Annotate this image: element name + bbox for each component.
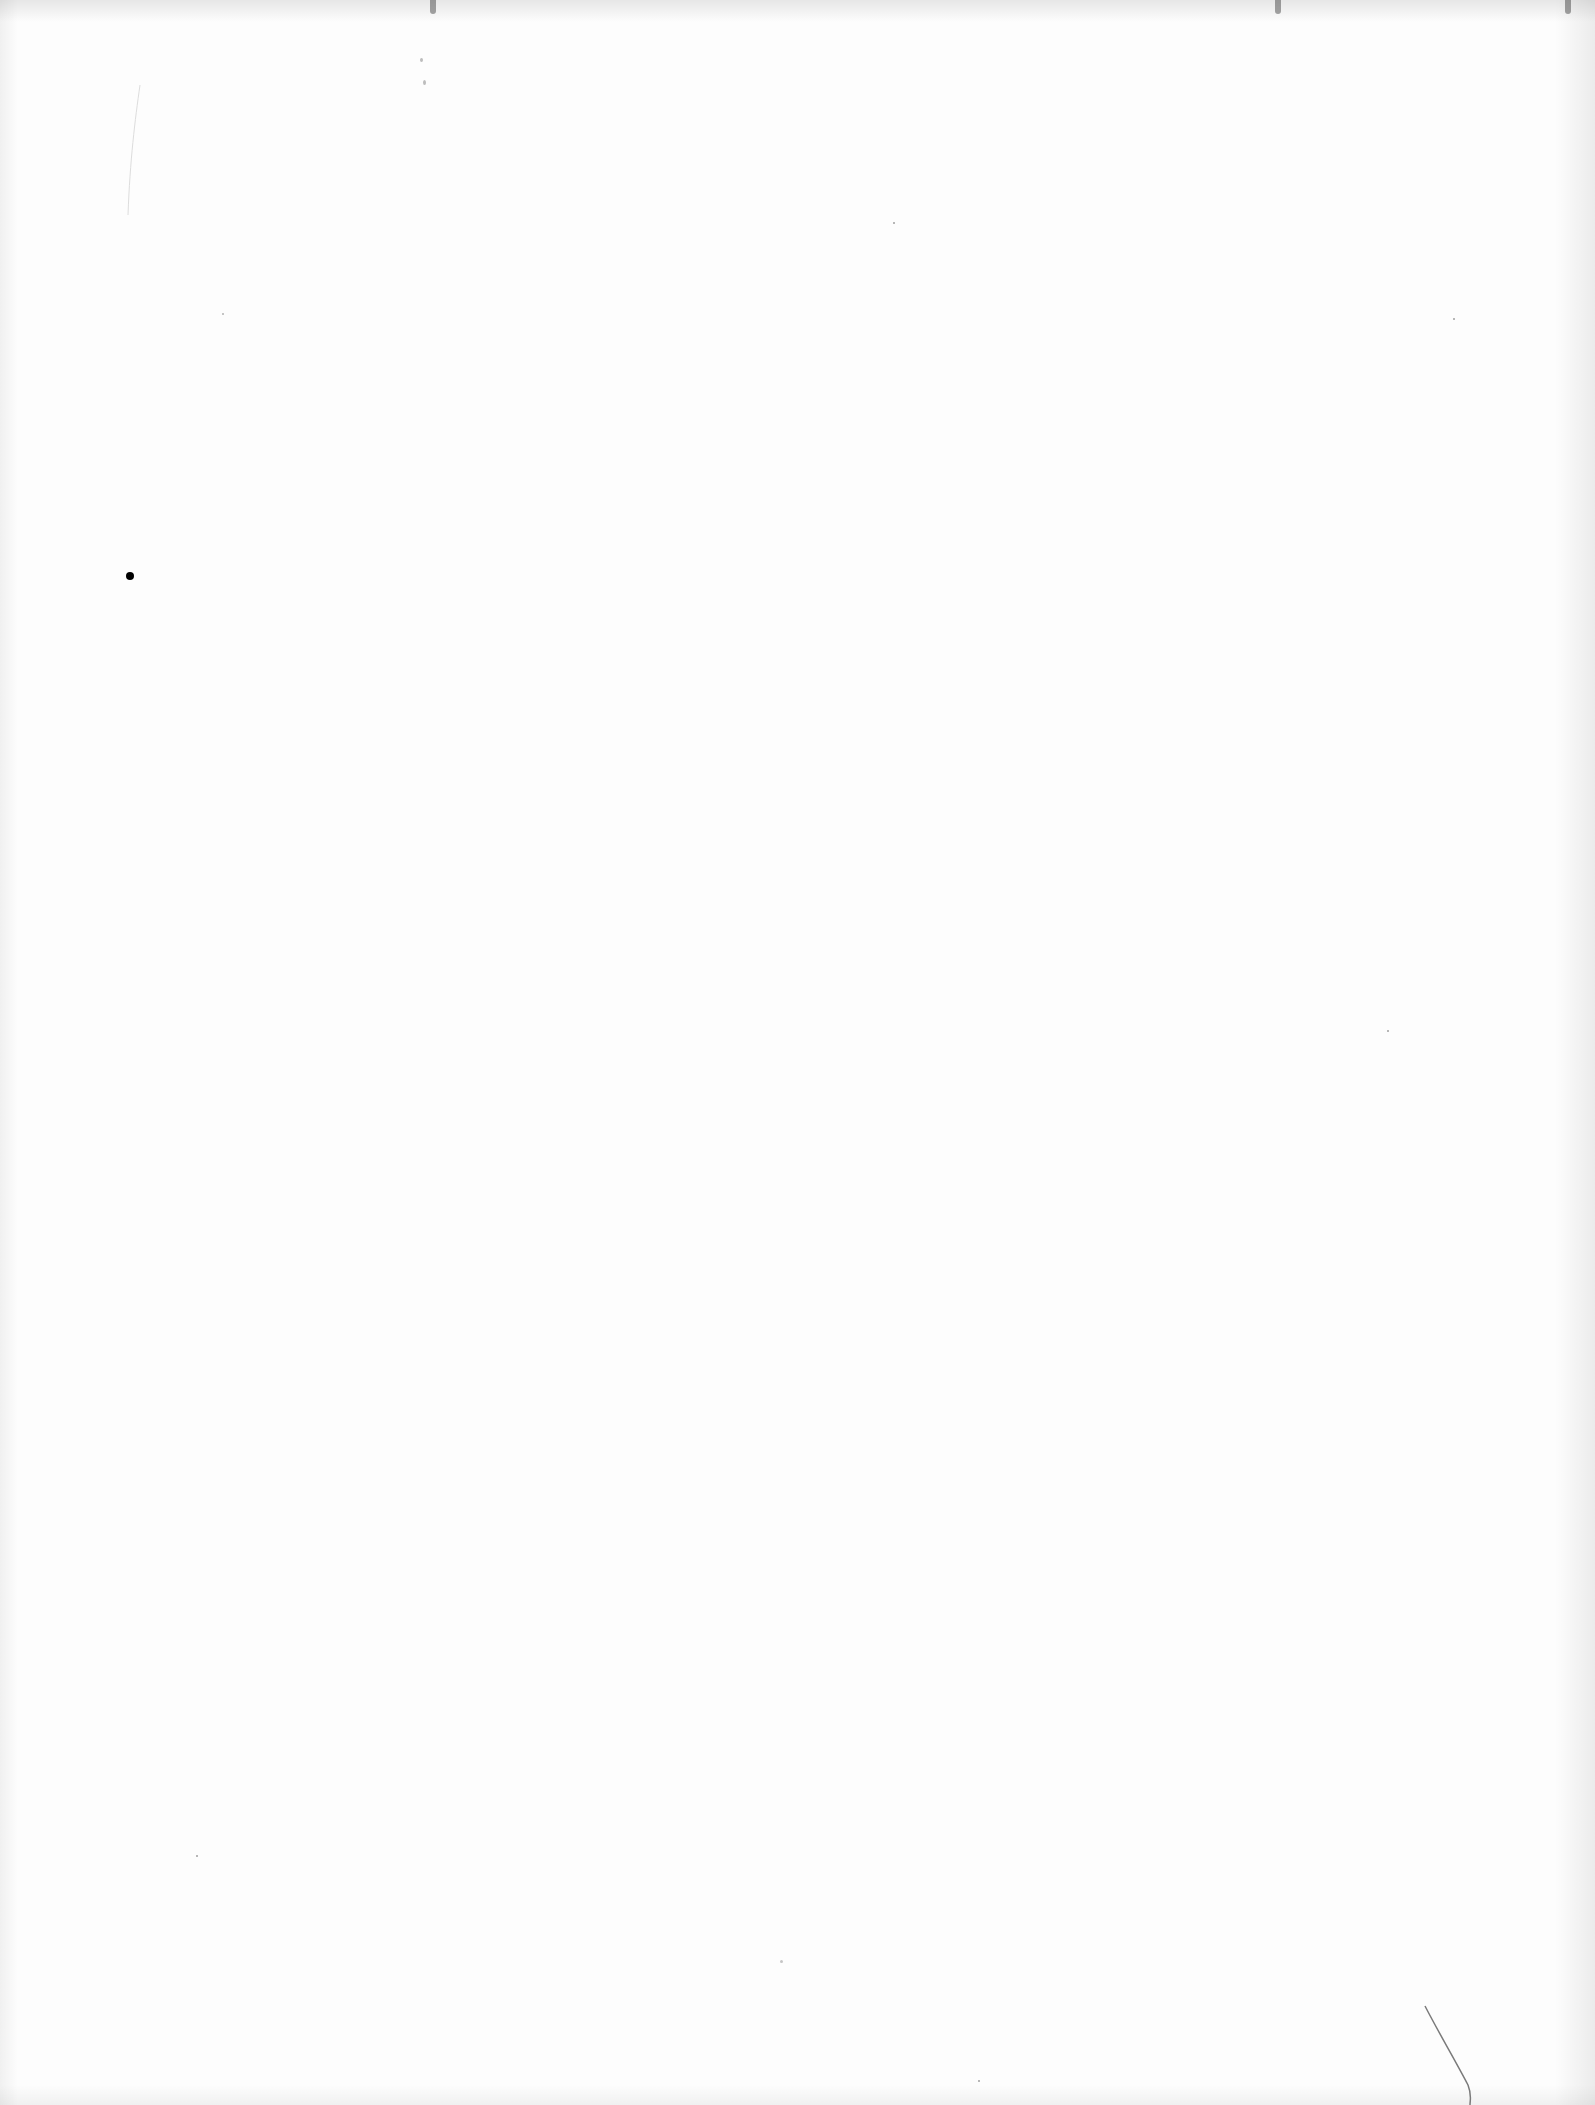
blank-page: [0, 0, 1595, 2105]
hair-mark: [0, 0, 1595, 2105]
